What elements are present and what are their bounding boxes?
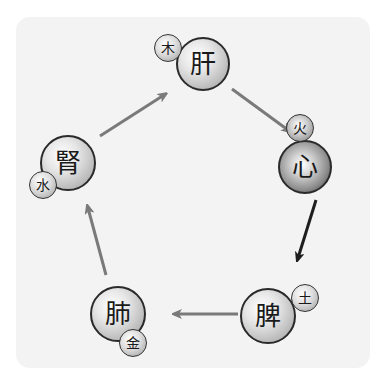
badge-fire: 火 [286,114,314,142]
badge-wood: 木 [154,34,182,62]
badge-water: 水 [29,171,57,199]
organ-label-kidney: 腎 [55,150,81,176]
node-spleen: 脾 [240,288,296,344]
node-heart: 心 [278,140,332,194]
organ-label-liver: 肝 [190,51,216,77]
arrow-lung-to-kidney [88,208,106,275]
badge-metal: 金 [119,329,147,357]
arrow-heart-to-spleen [298,200,316,258]
element-label-fire: 火 [293,121,307,135]
organ-label-lung: 肺 [105,301,131,327]
element-label-metal: 金 [126,336,140,350]
element-label-earth: 土 [298,291,312,305]
element-label-water: 水 [36,178,50,192]
organ-label-spleen: 脾 [255,303,281,329]
node-liver: 肝 [176,37,230,91]
arrow-liver-to-heart [232,89,288,130]
arrow-kidney-to-liver [100,95,164,136]
element-label-wood: 木 [161,41,175,55]
organ-label-heart: 心 [292,154,318,180]
badge-earth: 土 [291,284,319,312]
